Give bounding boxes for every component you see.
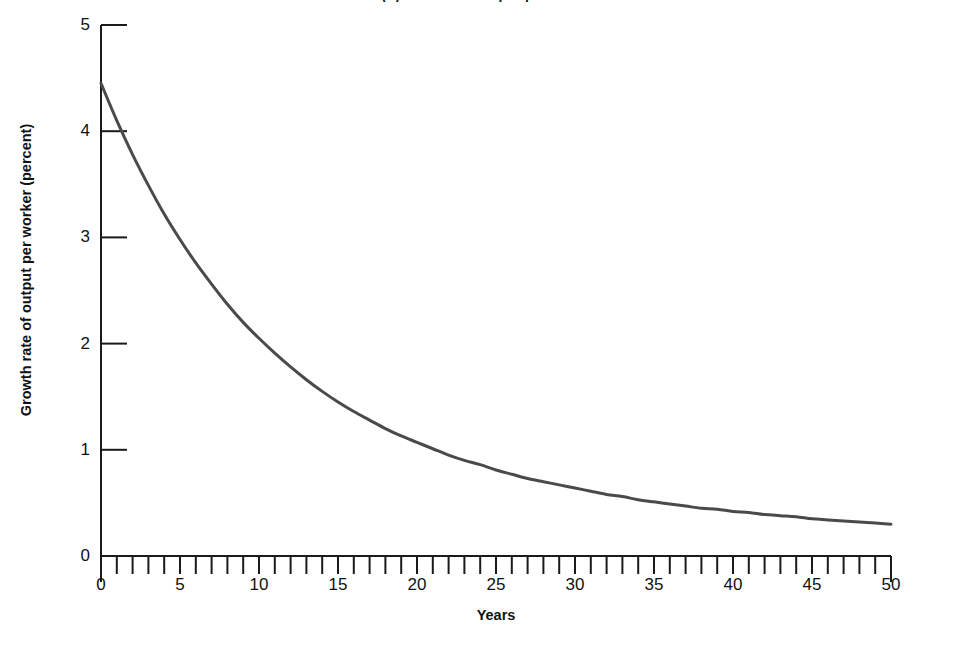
x-axis-tick-label: 40 <box>710 576 756 593</box>
axes <box>101 25 891 582</box>
y-axis-title: Growth rate of output per worker (percen… <box>18 30 34 510</box>
y-axis-tick-label: 1 <box>60 441 90 458</box>
x-axis-tick-label: 45 <box>789 576 835 593</box>
y-axis-tick-label: 3 <box>60 228 90 245</box>
x-axis-tick-label: 30 <box>552 576 598 593</box>
series-line-growth-rate <box>101 83 891 524</box>
x-axis-tick-label: 35 <box>631 576 677 593</box>
plot-area <box>0 0 980 648</box>
x-axis-tick-label: 25 <box>473 576 519 593</box>
x-axis-tick-labels: 05101520253035404550 <box>0 576 980 602</box>
x-axis-tick-label: 0 <box>78 576 124 593</box>
x-axis-tick-label: 50 <box>868 576 914 593</box>
y-axis-tick-label: 4 <box>60 122 90 139</box>
y-axis-tick-label: 0 <box>60 547 90 564</box>
chart-title: (b) Growth of output per worker <box>0 0 980 2</box>
x-axis-tick-label: 15 <box>315 576 361 593</box>
chart-figure: (b) Growth of output per worker Growth r… <box>0 0 980 648</box>
x-axis-tick-label: 10 <box>236 576 282 593</box>
data-series <box>101 83 891 524</box>
x-axis-tick-label: 5 <box>157 576 203 593</box>
y-axis-tick-label: 5 <box>60 16 90 33</box>
x-axis-title: Years <box>101 607 891 623</box>
x-axis-tick-label: 20 <box>394 576 440 593</box>
y-axis-tick-labels: 012345 <box>52 0 90 648</box>
y-axis-tick-label: 2 <box>60 335 90 352</box>
